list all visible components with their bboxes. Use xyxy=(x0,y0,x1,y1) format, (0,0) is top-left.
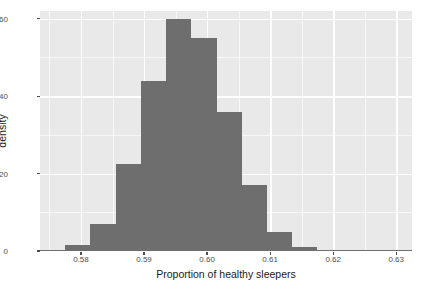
histogram-bar xyxy=(90,224,115,251)
y-axis-tick-mark xyxy=(37,96,40,97)
histogram-bar xyxy=(217,112,242,251)
x-axis-tick-label: 0.63 xyxy=(388,255,404,264)
histogram-bar xyxy=(141,81,166,251)
x-axis-tick-mark xyxy=(143,252,144,255)
x-axis-tick-mark xyxy=(80,252,81,255)
gridline-vertical-major xyxy=(270,11,271,251)
gridline-horizontal-minor xyxy=(40,57,412,58)
histogram-bar xyxy=(65,245,90,251)
y-axis-tick-label: 40 xyxy=(0,92,8,101)
histogram-bar xyxy=(116,164,141,251)
x-axis-tick-label: 0.59 xyxy=(136,255,152,264)
gridline-vertical-minor xyxy=(365,11,366,251)
x-axis-tick-label: 0.62 xyxy=(325,255,341,264)
histogram-bar xyxy=(166,19,191,251)
x-axis-tick-mark xyxy=(333,252,334,255)
x-axis-tick-mark xyxy=(206,252,207,255)
histogram-chart: 0204060 0.580.590.600.610.620.63 Proport… xyxy=(0,0,425,296)
histogram-bar xyxy=(343,250,412,251)
gridline-horizontal-major xyxy=(40,96,412,97)
gridline-vertical-major xyxy=(81,11,82,251)
histogram-bar xyxy=(317,250,342,251)
histogram-bar xyxy=(191,38,216,251)
gridline-vertical-major xyxy=(396,11,397,251)
gridline-vertical-minor xyxy=(113,11,114,251)
y-axis-tick-label: 20 xyxy=(0,169,8,178)
x-axis-tick-label: 0.61 xyxy=(262,255,278,264)
y-axis-tick-mark xyxy=(37,18,40,19)
y-axis-tick-mark xyxy=(37,250,40,251)
gridline-horizontal-major xyxy=(40,19,412,20)
x-axis-tick-label: 0.60 xyxy=(199,255,215,264)
x-axis-title: Proportion of healthy sleepers xyxy=(40,268,412,280)
histogram-bar xyxy=(292,247,317,251)
y-axis-title: density xyxy=(0,114,8,147)
histogram-bar xyxy=(40,250,65,251)
histogram-bar xyxy=(242,185,267,251)
x-axis-tick-mark xyxy=(396,252,397,255)
gridline-vertical-minor xyxy=(49,11,50,251)
y-axis-tick-label: 0 xyxy=(4,247,8,256)
plot-panel xyxy=(40,11,412,251)
histogram-bar xyxy=(267,232,292,251)
x-axis-tick-mark xyxy=(270,252,271,255)
x-axis-tick-label: 0.58 xyxy=(73,255,89,264)
gridline-vertical-major xyxy=(333,11,334,251)
gridline-vertical-minor xyxy=(302,11,303,251)
y-axis-tick-label: 60 xyxy=(0,14,8,23)
y-axis-tick-mark xyxy=(37,173,40,174)
